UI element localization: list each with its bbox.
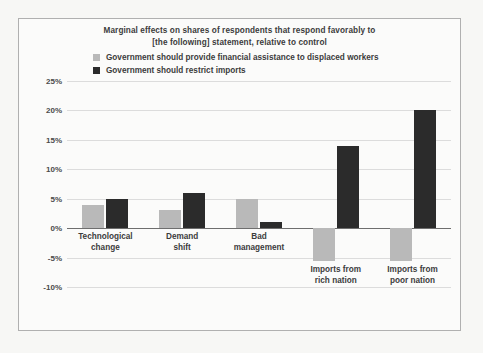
bar-group [221, 81, 298, 287]
legend-swatch-light [93, 54, 100, 61]
bar-group [297, 81, 374, 287]
legend-swatch-dark [93, 67, 100, 74]
bar [313, 228, 335, 260]
chart-title-line-2: [the following] statement, relative to c… [19, 37, 460, 49]
y-axis-tick-label: 15% [46, 135, 62, 144]
legend-item-restrict-imports: Government should restrict imports [93, 64, 453, 77]
bar [106, 199, 128, 228]
bar [236, 199, 258, 228]
y-axis-tick-label: 25% [46, 77, 62, 86]
bar-group [374, 81, 451, 287]
bar-group [67, 81, 144, 287]
x-axis-category-label: Bad management [211, 231, 307, 253]
bar [414, 110, 436, 228]
bar [337, 146, 359, 228]
chart-title-line-1: Marginal effects on shares of respondent… [19, 25, 460, 37]
bar [260, 222, 282, 228]
x-axis-category-label: Imports from poor nation [365, 264, 461, 286]
y-axis-tick-label: 10% [46, 165, 62, 174]
y-axis-tick-label: -5% [48, 253, 62, 262]
gridline: -10% [67, 287, 451, 288]
y-axis-tick-label: 20% [46, 106, 62, 115]
bar [82, 205, 104, 229]
legend-label-financial-assistance: Government should provide financial assi… [106, 53, 379, 62]
chart-title: Marginal effects on shares of respondent… [19, 25, 460, 49]
legend-item-financial-assistance: Government should provide financial assi… [93, 51, 453, 64]
bar-group [144, 81, 221, 287]
y-axis-tick-label: 5% [50, 194, 62, 203]
y-axis-tick-label: -10% [43, 283, 62, 292]
bar [159, 210, 181, 228]
plot-area: 25%20%15%10%5%0%-5%-10%Technological cha… [67, 81, 451, 287]
chart-figure: Marginal effects on shares of respondent… [18, 18, 461, 331]
chart-legend: Government should provide financial assi… [93, 51, 453, 77]
bar [390, 228, 412, 260]
legend-label-restrict-imports: Government should restrict imports [106, 66, 246, 75]
bar [183, 193, 205, 228]
